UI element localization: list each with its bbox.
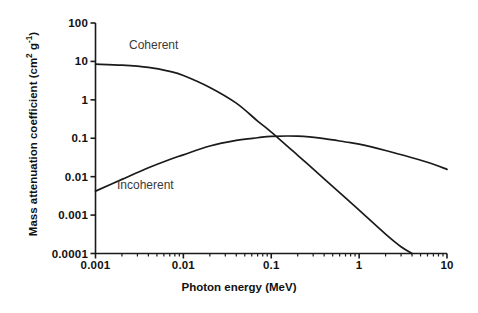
y-axis-title-sup-inverse: -1 — [25, 36, 34, 43]
curve-label-incoherent: Incoherent — [117, 178, 174, 192]
curve-label-coherent: Coherent — [129, 38, 178, 52]
y-axis-title-sup-squared: 2 — [25, 53, 34, 58]
x-tick-label: 0.001 — [81, 259, 111, 271]
y-axis-title-part3: ) — [27, 32, 39, 36]
data-curves — [96, 64, 448, 253]
axis-lines — [95, 23, 447, 254]
x-tick-label: 1 — [356, 259, 363, 271]
x-tick-label: 10 — [440, 259, 453, 271]
plot-canvas — [0, 0, 478, 313]
x-tick-label: 0.1 — [263, 259, 280, 271]
chart-figure: 1001010.10.010.0010.0001 0.0010.010.1110… — [0, 0, 478, 313]
y-axis-title: Mass attenuation coefficient (cm2 g-1) — [27, 19, 39, 249]
y-axis-title-part2: g — [27, 43, 39, 53]
x-tick-label: 0.01 — [172, 259, 195, 271]
curve-coherent — [96, 64, 413, 253]
y-tick-label: 0.0001 — [30, 248, 88, 260]
y-axis-title-part1: Mass attenuation coefficient (cm — [27, 58, 39, 236]
x-axis-title: Photon energy (MeV) — [0, 281, 478, 293]
